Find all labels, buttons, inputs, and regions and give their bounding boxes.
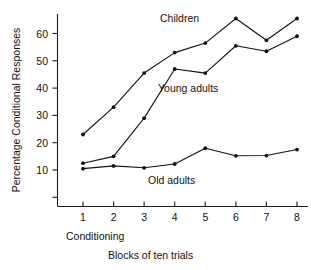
data-point — [265, 154, 269, 158]
x-tick-label-2: 2 — [111, 211, 117, 223]
x-tick-label-3: 3 — [141, 211, 147, 223]
data-point — [112, 154, 116, 158]
series-young-adults — [81, 34, 299, 165]
y-tick-label-50: 50 — [36, 55, 48, 67]
data-point — [81, 133, 85, 137]
data-point — [112, 105, 116, 109]
data-point — [142, 116, 146, 120]
series-label-old-adults: Old adults — [148, 174, 195, 186]
data-point — [265, 49, 269, 53]
data-point — [142, 71, 146, 75]
series-line — [83, 18, 297, 134]
data-point — [203, 146, 207, 150]
data-point — [173, 67, 177, 71]
x-tick-label-5: 5 — [202, 211, 208, 223]
x-axis-title: Blocks of ten trials — [108, 249, 193, 261]
data-point — [265, 38, 269, 42]
data-point — [81, 161, 85, 165]
y-tick-label-40: 40 — [36, 82, 48, 94]
data-point — [234, 154, 238, 158]
x-tick-label-8: 8 — [294, 211, 300, 223]
series-old-adults — [81, 146, 299, 170]
y-axis-title: Percentage Conditional Responses — [10, 28, 22, 193]
data-point — [173, 51, 177, 55]
y-axis-ticks — [53, 34, 58, 198]
x-tick-label-7: 7 — [263, 211, 269, 223]
data-point — [295, 148, 299, 152]
data-point — [295, 34, 299, 38]
series-label-young-adults: Young adults — [158, 82, 218, 94]
data-point — [112, 164, 116, 168]
x-tick-label-6: 6 — [233, 211, 239, 223]
series-children — [81, 17, 299, 137]
conditioning-label: Conditioning — [66, 230, 125, 242]
y-tick-label-60: 60 — [36, 28, 48, 40]
data-point — [81, 167, 85, 171]
x-tick-label-4: 4 — [172, 211, 178, 223]
data-point — [173, 162, 177, 166]
series-line — [83, 36, 297, 163]
x-axis-ticks — [83, 202, 297, 207]
data-point — [234, 17, 238, 21]
chart-figure: 60 50 40 30 20 10 1 2 3 4 5 6 7 8 Childr… — [0, 0, 311, 270]
data-point — [234, 44, 238, 48]
y-tick-label-20: 20 — [36, 137, 48, 149]
data-point — [203, 71, 207, 75]
series-label-children: Children — [160, 12, 199, 24]
x-tick-label-1: 1 — [80, 211, 86, 223]
data-point — [142, 166, 146, 170]
y-tick-label-10: 10 — [36, 164, 48, 176]
data-point — [203, 41, 207, 45]
line-chart-canvas: 60 50 40 30 20 10 1 2 3 4 5 6 7 8 Childr… — [0, 0, 311, 270]
data-point — [295, 17, 299, 21]
y-tick-label-30: 30 — [36, 109, 48, 121]
